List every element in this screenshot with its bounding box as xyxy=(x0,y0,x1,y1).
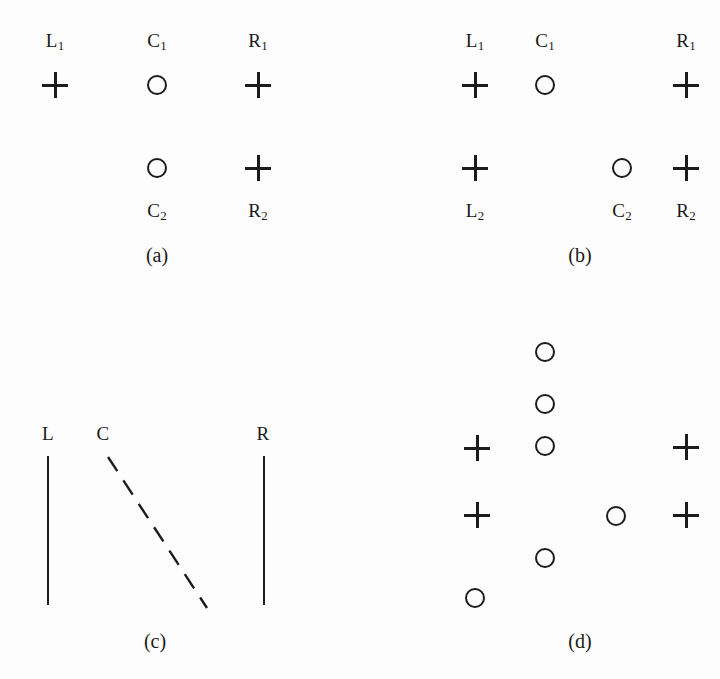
panel-d: (d) xyxy=(0,0,720,679)
figure-canvas: L1C1R1C2R2(a)L1C1R1L2C2R2(b)LCR(c)(d) xyxy=(0,0,720,679)
plus-right-1-icon xyxy=(673,434,699,460)
circle-c-4-icon xyxy=(535,548,555,568)
plus-right-2-icon xyxy=(673,502,699,528)
circle-c-2-icon xyxy=(535,394,555,414)
plus-left-1-icon xyxy=(464,435,490,461)
circle-c-3-icon xyxy=(535,436,555,456)
plus-left-2-icon xyxy=(464,502,490,528)
circle-mid-icon xyxy=(606,506,626,526)
panel-caption-d: (d) xyxy=(568,631,591,651)
circle-left-icon xyxy=(465,588,485,608)
circle-c-1-icon xyxy=(535,342,555,362)
